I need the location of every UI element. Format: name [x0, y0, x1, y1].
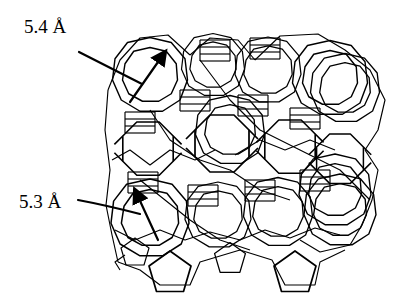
connecting-edges: [105, 34, 385, 285]
annotation-arrows: [78, 52, 165, 240]
framework-drawing: [0, 0, 393, 303]
zeolite-framework-figure: 5.4 Å 5.3 Å: [0, 0, 393, 303]
pore-size-label-bottom: 5.3 Å: [19, 192, 61, 211]
pore-size-label-top: 5.4 Å: [24, 17, 66, 36]
arrow-pore-top-span: [130, 52, 165, 102]
arrow-pore-bottom-leader: [78, 200, 140, 214]
arrow-pore-bottom-span: [135, 190, 158, 240]
arrow-pore-top-leader: [79, 52, 142, 84]
